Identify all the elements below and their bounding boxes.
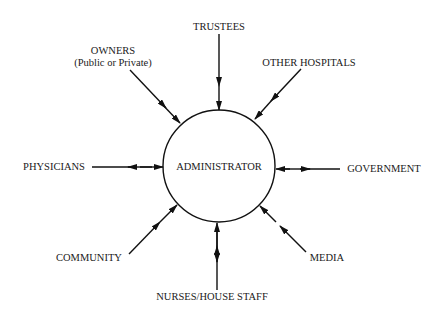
edge-other-hospitals <box>255 69 301 119</box>
administrator-relationship-diagram: ADMINISTRATOR TRUSTEES OWNERS (Public or… <box>0 0 439 315</box>
node-label-trustees: TRUSTEES <box>179 21 259 33</box>
node-sublabel-owners: (Public or Private) <box>63 57 163 69</box>
node-label-other-hospitals: OTHER HOSPITALS <box>256 57 362 69</box>
node-label-community: COMMUNITY <box>52 252 126 264</box>
edge-owners <box>130 70 180 123</box>
edge-community <box>129 205 177 254</box>
node-label-media: MEDIA <box>305 252 349 264</box>
node-label-government: GOVERNMENT <box>343 163 425 175</box>
node-label-physicians: PHYSICIANS <box>16 161 92 173</box>
node-label-owners: OWNERS <box>63 45 163 57</box>
edge-media <box>260 206 306 252</box>
node-label-nurses: NURSES/HOUSE STAFF <box>149 291 275 303</box>
center-label-administrator: ADMINISTRATOR <box>169 161 269 173</box>
